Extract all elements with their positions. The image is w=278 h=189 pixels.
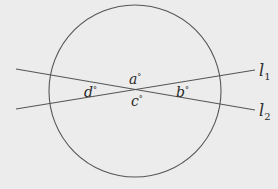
line-label-l1: l1 [259,61,271,82]
angle-label-b: b° [176,84,189,100]
angle-label-c: c° [131,93,143,109]
angle-label-d: d° [84,84,97,100]
angle-label-a: a° [129,71,141,87]
circle [49,5,221,177]
geometry-diagram: a° b° c° d° l1 l2 [0,0,278,189]
line-label-l2: l2 [259,101,271,122]
